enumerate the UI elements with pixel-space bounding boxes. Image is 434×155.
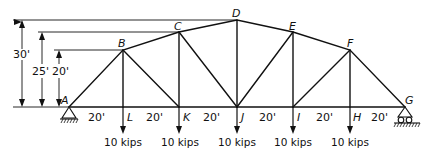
node-label-f: F [347,37,354,50]
roller-wheel-icon [406,117,412,123]
node-label-a: A [60,94,69,107]
load-label-j: 10 kips [218,136,256,148]
height-dimensions [19,20,62,107]
spacing-label-2: 20' [146,111,163,124]
load-label-h: 10 kips [331,136,369,148]
truss-members [69,20,405,107]
node-label-h: H [353,111,361,124]
spacing-label-4: 20' [259,111,276,124]
ground-hatch-icon [394,123,420,127]
member-c-j [179,32,237,107]
height-label-25: 25' [32,65,49,78]
roller-support-g [394,107,420,127]
node-label-j: J [239,111,244,124]
ground-hatch-icon [61,119,78,123]
member-f-i [293,50,350,107]
member-b-k [123,50,179,107]
node-label-b: B [118,37,126,50]
load-label-k: 10 kips [161,136,199,148]
node-label-d: D [232,7,240,20]
node-label-c: C [174,20,182,33]
node-label-g: G [405,94,414,107]
height-label-20: 20' [52,65,69,78]
member-e-j [237,32,293,107]
pin-support-a [60,107,78,123]
load-label-i: 10 kips [274,136,312,148]
node-label-l: L [127,111,133,124]
pin-support-triangle-icon [62,107,76,118]
roller-support-triangle-icon [398,107,412,117]
load-label-l: 10 kips [104,136,142,148]
height-label-30: 30' [13,48,30,61]
roller-wheel-icon [398,117,404,123]
truss-diagram: 30' 25' 20' A B C D E F G L K J I H 20' [0,0,434,155]
spacing-label-3: 20' [203,111,220,124]
node-label-k: K [183,111,191,124]
load-labels: 10 kips 10 kips 10 kips 10 kips 10 kips [104,136,369,148]
spacing-label-6: 20' [371,111,388,124]
spacing-label-1: 20' [88,111,105,124]
spacing-label-5: 20' [316,111,333,124]
node-label-i: I [297,111,300,124]
node-label-e: E [289,20,296,33]
